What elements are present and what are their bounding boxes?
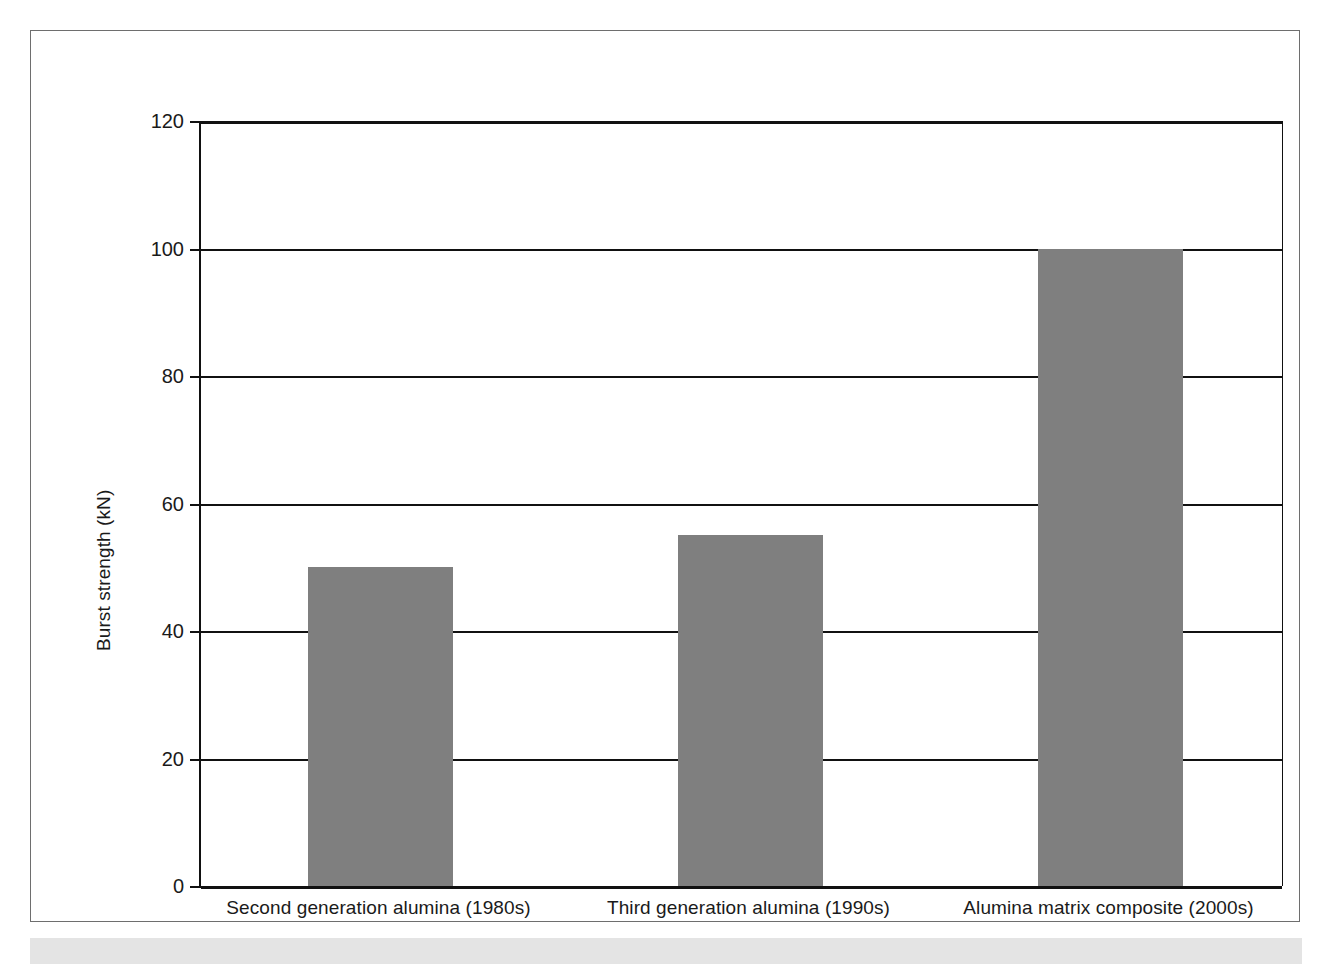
x-axis-category-label: Alumina matrix composite (2000s) — [963, 897, 1253, 919]
y-tick-mark — [190, 504, 201, 506]
y-tick-mark — [190, 759, 201, 761]
y-tick-label: 120 — [151, 110, 184, 133]
y-tick-mark — [190, 121, 201, 123]
bar — [308, 567, 453, 886]
bar — [678, 535, 823, 886]
y-axis-title: Burst strength (kN) — [93, 351, 119, 651]
y-tick-label: 100 — [151, 237, 184, 260]
y-gridline — [201, 121, 1282, 124]
y-gridline — [201, 886, 1282, 889]
y-tick-mark — [190, 249, 201, 251]
y-tick-label: 0 — [173, 875, 184, 898]
page-bottom-strip — [30, 938, 1302, 964]
y-tick-mark — [190, 886, 201, 888]
bar — [1038, 249, 1183, 887]
y-tick-label: 20 — [162, 747, 184, 770]
plot-area: 020406080100120 — [199, 121, 1283, 886]
x-axis-category-label: Third generation alumina (1990s) — [607, 897, 890, 919]
y-tick-label: 60 — [162, 492, 184, 515]
y-tick-mark — [190, 631, 201, 633]
x-axis-category-label: Second generation alumina (1980s) — [226, 897, 530, 919]
x-axis-category-labels: Second generation alumina (1980s)Third g… — [199, 897, 1283, 927]
figure-frame: Burst strength (kN) 020406080100120 Seco… — [30, 30, 1300, 922]
y-tick-label: 40 — [162, 620, 184, 643]
y-tick-label: 80 — [162, 365, 184, 388]
y-tick-mark — [190, 376, 201, 378]
